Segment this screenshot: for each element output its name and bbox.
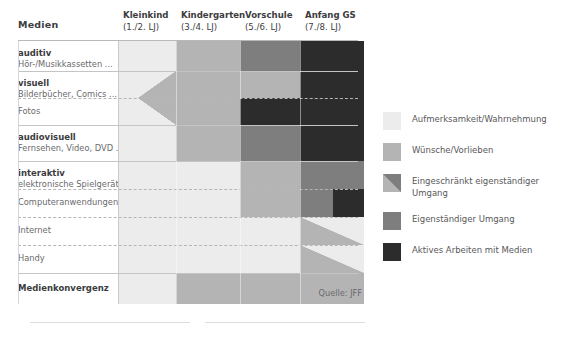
heatmap-cell	[118, 125, 176, 161]
row-label-title: interaktiv	[18, 168, 124, 179]
row-label-title: visuell	[18, 78, 117, 89]
heatmap-cell	[138, 98, 176, 125]
heatmap-cell	[118, 245, 176, 273]
column-header-label: Kleinkind	[123, 10, 168, 22]
row-separator	[18, 189, 358, 190]
heatmap-cell	[240, 125, 300, 161]
row-label: Internet	[18, 225, 51, 236]
column-divider	[364, 41, 365, 304]
heatmap-cell	[118, 217, 176, 245]
heatmap-cell	[300, 217, 364, 245]
row-separator	[18, 161, 358, 162]
table-row: Computeranwendungen	[0, 189, 368, 217]
heatmap-cell	[118, 189, 176, 217]
row-separator	[18, 273, 358, 274]
row-separator	[18, 125, 358, 126]
heatmap-cell	[300, 98, 364, 125]
heatmap-cell	[240, 41, 300, 71]
column-header-label: Anfang GS	[305, 10, 356, 22]
chart-body: auditivHör-/Musikkassetten ...visuellBil…	[0, 41, 368, 304]
table-row: auditivHör-/Musikkassetten ...	[0, 41, 368, 71]
media-competency-chart: Medien Kleinkind(1./2. LJ)Kindergarten(3…	[0, 0, 368, 310]
legend-item: Aufmerksamkeit/Wahrnehmung	[383, 112, 571, 130]
heatmap-cell	[300, 41, 364, 71]
heatmap-cell	[300, 245, 364, 273]
legend-label: Eigenständiger Umgang	[412, 212, 571, 226]
row-label-title: Medienkonvergenz	[18, 283, 109, 294]
column-header-sub: (7./8. LJ)	[305, 22, 356, 34]
legend-item: Eingeschränkt eigenständiger Umgang	[383, 174, 571, 199]
row-label: visuellBilderbücher, Comics ...	[18, 78, 117, 100]
row-label-sub: Hör-/Musikkassetten ...	[18, 59, 113, 70]
legend-swatch	[383, 243, 401, 261]
table-row: Handy	[0, 245, 368, 273]
legend-swatch	[383, 174, 401, 192]
source-note: Quelle: JFF	[240, 288, 362, 298]
legend-swatch	[383, 143, 401, 161]
column-header-sub: (1./2. LJ)	[123, 22, 168, 34]
heatmap-cell	[176, 71, 240, 98]
legend-item: Aktives Arbeiten mit Medien	[383, 243, 571, 261]
heatmap-cell	[300, 71, 364, 98]
row-separator	[18, 98, 358, 99]
heatmap-cell	[300, 161, 364, 189]
heatmap-cell	[300, 189, 333, 217]
row-label: Computeranwendungen	[18, 197, 118, 208]
row-label: interaktivelektronische Spielgeräte	[18, 168, 124, 190]
heatmap-cell	[118, 161, 176, 189]
heatmap-cell	[333, 189, 364, 217]
column-divider	[240, 41, 241, 304]
table-row: visuellBilderbücher, Comics ...	[0, 71, 368, 98]
heatmap-cell	[118, 71, 138, 98]
column-header-2: Vorschule(5./6. LJ)	[245, 10, 293, 33]
footer-rule-left	[30, 322, 190, 323]
label-column-divider	[18, 41, 19, 304]
row-label: Handy	[18, 253, 45, 264]
legend-label: Wünsche/Vorlieben	[412, 143, 571, 157]
heatmap-cell	[176, 245, 240, 273]
footer-rule-right	[205, 322, 365, 323]
legend-swatch	[383, 112, 401, 130]
page-title: Medien	[18, 19, 58, 30]
heatmap-cell	[176, 273, 240, 304]
row-label-title: auditiv	[18, 48, 113, 59]
column-header-3: Anfang GS(7./8. LJ)	[305, 10, 356, 33]
heatmap-cell	[240, 189, 300, 217]
column-divider	[118, 41, 119, 304]
row-label: auditivHör-/Musikkassetten ...	[18, 48, 113, 70]
column-header-sub: (5./6. LJ)	[245, 22, 293, 34]
chart-header: Medien Kleinkind(1./2. LJ)Kindergarten(3…	[0, 0, 368, 41]
table-row: Internet	[0, 217, 368, 245]
row-cells	[118, 245, 364, 273]
heatmap-cell	[176, 189, 240, 217]
row-label-title: audiovisuell	[18, 132, 124, 143]
column-header-1: Kindergarten(3./4. LJ)	[181, 10, 245, 33]
row-separator	[18, 217, 358, 218]
row-label: audiovisuellFernsehen, Video, DVD ...	[18, 132, 124, 154]
row-cells	[118, 41, 364, 71]
column-divider	[300, 41, 301, 304]
heatmap-cell	[240, 161, 300, 189]
column-divider	[176, 41, 177, 304]
heatmap-cell	[176, 98, 240, 125]
column-header-sub: (3./4. LJ)	[181, 22, 245, 34]
heatmap-cell	[176, 125, 240, 161]
heatmap-cell	[240, 245, 300, 273]
heatmap-cell	[138, 71, 176, 98]
heatmap-cell	[176, 41, 240, 71]
legend-label: Eingeschränkt eigenständiger Umgang	[412, 174, 571, 199]
legend: Aufmerksamkeit/WahrnehmungWünsche/Vorlie…	[383, 112, 571, 274]
heatmap-cell	[240, 71, 300, 98]
table-row: audiovisuellFernsehen, Video, DVD ...	[0, 125, 368, 161]
row-label: Medienkonvergenz	[18, 283, 109, 294]
row-cells	[118, 98, 364, 125]
heatmap-cell	[118, 41, 176, 71]
row-cells	[118, 161, 364, 189]
row-cells	[118, 189, 364, 217]
row-cells	[118, 217, 364, 245]
legend-label: Aufmerksamkeit/Wahrnehmung	[412, 112, 571, 126]
column-header-label: Kindergarten	[181, 10, 245, 22]
column-header-label: Vorschule	[245, 10, 293, 22]
legend-label: Aktives Arbeiten mit Medien	[412, 243, 571, 257]
legend-item: Eigenständiger Umgang	[383, 212, 571, 230]
